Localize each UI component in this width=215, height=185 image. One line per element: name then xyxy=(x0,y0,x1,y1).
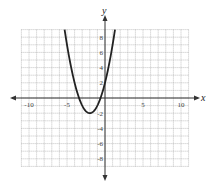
coordinate-plane: -10-55108642-2-4-6-8 x y xyxy=(0,0,215,185)
y-tick-label: -8 xyxy=(97,155,103,163)
y-tick-label: -6 xyxy=(97,140,103,148)
y-tick-label: -4 xyxy=(97,125,103,133)
x-tick-label: -5 xyxy=(64,101,70,109)
y-tick-label: 8 xyxy=(100,34,104,42)
y-tick-label: 4 xyxy=(100,64,104,72)
y-axis-label: y xyxy=(101,5,107,16)
x-axis-label: x xyxy=(200,92,206,103)
x-tick-label: 5 xyxy=(141,101,145,109)
y-tick-label: 6 xyxy=(100,49,104,57)
y-tick-label: -2 xyxy=(97,110,103,118)
x-tick-label: -10 xyxy=(24,101,34,109)
y-tick-label: 2 xyxy=(100,79,104,87)
axes xyxy=(10,15,200,181)
x-tick-label: 10 xyxy=(178,101,186,109)
